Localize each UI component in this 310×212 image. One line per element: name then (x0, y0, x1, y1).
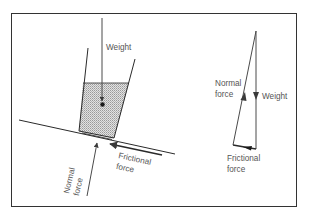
triangle-normal-label-line2: force (215, 90, 234, 99)
normal-force-arrow (87, 143, 97, 196)
weight-label: Weight (106, 43, 132, 52)
triangle-frictional-label-line2: force (227, 165, 246, 174)
beaker-diagram: Weight Frictional force Normal force (19, 18, 175, 197)
triangle-normal-label-line1: Normal (215, 79, 242, 88)
centre-of-mass-dot (100, 102, 104, 106)
triangle-normal-side (233, 31, 256, 145)
triangle-weight-label: Weight (262, 92, 288, 101)
force-diagram: Weight Frictional force Normal force Wei… (0, 0, 310, 212)
force-triangle: Weight Normal force Frictional force (215, 31, 288, 174)
triangle-frictional-label-line1: Frictional (227, 154, 260, 163)
frictional-force-label-line2: force (115, 162, 135, 175)
triangle-weight-arrowhead (253, 92, 259, 100)
